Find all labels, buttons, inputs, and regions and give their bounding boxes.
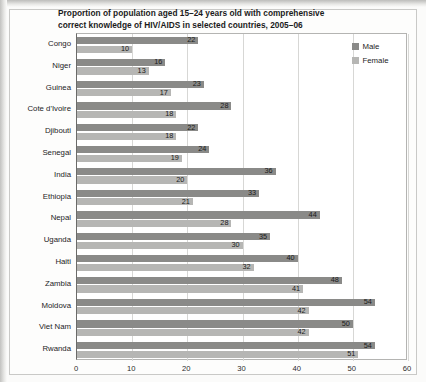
category-label: Guinea (46, 83, 71, 92)
bar-male (77, 81, 204, 88)
bar-value-label: 50 (342, 319, 350, 328)
bar-female (77, 198, 193, 205)
category-label: Congo (48, 39, 71, 48)
category-label: Djibouti (45, 126, 71, 135)
x-axis-tick-label: 20 (182, 364, 190, 373)
bar-male (77, 124, 198, 131)
x-axis-tick-label: 50 (348, 364, 356, 373)
bar-value-label: 23 (193, 79, 201, 88)
category-label: Zambia (45, 279, 71, 288)
bar-female (77, 329, 309, 336)
category-label: Ethiopia (43, 192, 71, 201)
bar-male (77, 102, 231, 109)
bar-value-label: 22 (187, 35, 195, 44)
bar-value-label: 21 (182, 197, 190, 206)
bar-female (77, 89, 171, 96)
bar-value-label: 36 (264, 166, 272, 175)
plot-area (76, 33, 407, 360)
bar-male (77, 342, 375, 349)
category-label: Rwanda (42, 344, 71, 353)
category-label: Senegal (42, 148, 71, 157)
category-label: Viet Nam (39, 322, 71, 331)
chart-page: Proportion of population aged 15–24 year… (0, 0, 426, 382)
bar-female (77, 285, 303, 292)
gridline-60 (408, 34, 409, 361)
bar-value-label: 33 (248, 188, 256, 197)
bar-value-label: 28 (220, 218, 228, 227)
x-axis-tick-label: 40 (292, 364, 300, 373)
category-axis-labels: CongoNigerGuineaCote d'IvoireDjiboutiSen… (0, 33, 71, 360)
page-edge-shadow-top (0, 0, 426, 7)
bar-value-label: 54 (364, 341, 372, 350)
bar-female (77, 242, 243, 249)
category-label: India (54, 170, 71, 179)
bar-value-label: 22 (187, 123, 195, 132)
bar-female (77, 155, 182, 162)
bar-male (77, 211, 320, 218)
bar-value-label: 30 (231, 240, 239, 249)
x-axis-tick-label: 30 (237, 364, 245, 373)
bar-male (77, 277, 342, 284)
category-label: Nepal (51, 213, 71, 222)
bar-female (77, 351, 358, 358)
bar-value-label: 18 (165, 131, 173, 140)
legend-swatch-male-icon (352, 43, 359, 50)
chart-title-line-1: Proportion of population aged 15–24 year… (58, 8, 388, 20)
category-label: Uganda (44, 235, 71, 244)
category-label: Haiti (55, 257, 71, 266)
bar-value-label: 54 (364, 297, 372, 306)
bar-value-label: 40 (287, 253, 295, 262)
legend-item-male: Male (352, 42, 389, 51)
bar-value-label: 18 (165, 109, 173, 118)
bar-value-label: 20 (176, 175, 184, 184)
bar-value-label: 35 (259, 232, 267, 241)
legend-label-male: Male (363, 42, 380, 51)
category-label: Cote d'Ivoire (27, 104, 71, 113)
bar-female (77, 220, 231, 227)
bar-female (77, 111, 176, 118)
x-axis-tick-label: 10 (127, 364, 135, 373)
bar-value-label: 16 (154, 57, 162, 66)
bar-value-label: 51 (347, 349, 355, 358)
bar-value-label: 10 (121, 44, 129, 53)
bar-value-label: 28 (220, 101, 228, 110)
x-axis-tick-label: 0 (74, 364, 78, 373)
bar-male (77, 37, 198, 44)
bar-female (77, 133, 176, 140)
legend-item-female: Female (352, 56, 389, 65)
bar-female (77, 264, 254, 271)
bar-value-label: 19 (171, 153, 179, 162)
bar-value-label: 32 (242, 262, 250, 271)
bar-value-label: 44 (309, 210, 317, 219)
bar-value-label: 48 (331, 275, 339, 284)
chart-title-line-2: correct knowledge of HIV/AIDS in selecte… (58, 20, 388, 32)
bar-female (77, 307, 309, 314)
x-axis-tick-label: 60 (403, 364, 411, 373)
bar-value-label: 17 (160, 88, 168, 97)
bar-male (77, 320, 353, 327)
gridline-50 (353, 34, 354, 361)
bar-male (77, 299, 375, 306)
bar-value-label: 24 (198, 144, 206, 153)
bar-male (77, 59, 165, 66)
legend-label-female: Female (363, 56, 389, 65)
bar-female (77, 176, 187, 183)
bar-value-label: 41 (292, 284, 300, 293)
bar-male (77, 233, 270, 240)
category-label: Moldova (42, 301, 71, 310)
legend-swatch-female-icon (352, 57, 359, 64)
category-label: Niger (52, 61, 71, 70)
bar-value-label: 42 (298, 306, 306, 315)
bar-value-label: 13 (138, 66, 146, 75)
bar-male (77, 255, 298, 262)
bar-male (77, 190, 259, 197)
chart-title: Proportion of population aged 15–24 year… (58, 8, 388, 31)
bar-value-label: 42 (298, 327, 306, 336)
bar-male (77, 146, 209, 153)
chart-legend: Male Female (352, 42, 389, 70)
